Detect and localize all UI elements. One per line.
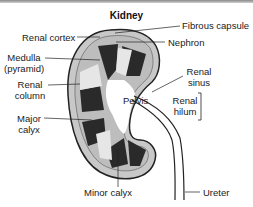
label-minor-calyx: Minor calyx [84, 187, 132, 198]
label-fibrous-capsule: Fibrous capsule [182, 20, 249, 31]
label-pelvis: Pelvis [123, 95, 148, 106]
label-major-calyx: Major calyx [14, 113, 44, 135]
label-major-calyx-line2: calyx [14, 124, 44, 135]
label-renal-cortex: Renal cortex [22, 32, 75, 43]
label-renal-sinus: Renal sinus [183, 66, 215, 88]
label-medulla: Medulla (pyramid) [4, 52, 44, 74]
label-renal-hilum-line2: hilum [170, 106, 200, 117]
label-renal-sinus-line2: sinus [183, 77, 215, 88]
label-renal-column-line2: column [12, 90, 48, 101]
label-renal-column-line1: Renal [12, 79, 48, 90]
label-nephron: Nephron [168, 37, 204, 48]
label-renal-hilum: Renal hilum [170, 95, 200, 117]
label-medulla-line2: (pyramid) [4, 63, 44, 74]
label-renal-sinus-line1: Renal [183, 66, 215, 77]
label-ureter: Ureter [203, 187, 229, 198]
label-renal-hilum-line1: Renal [170, 95, 200, 106]
label-medulla-line1: Medulla [4, 52, 44, 63]
label-renal-column: Renal column [12, 79, 48, 101]
label-major-calyx-line1: Major [14, 113, 44, 124]
